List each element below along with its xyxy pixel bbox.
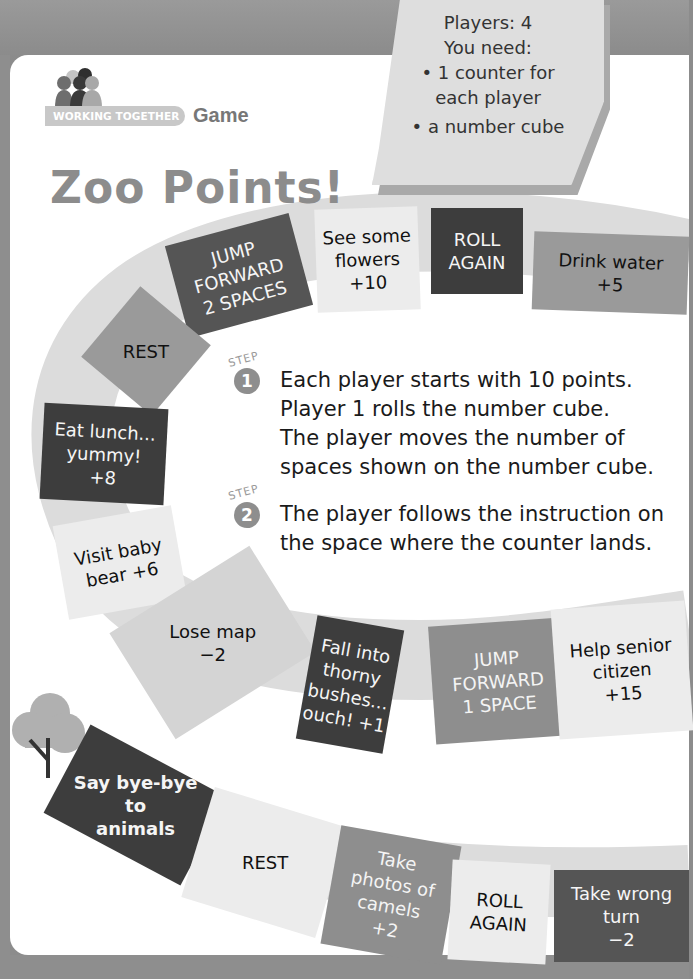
you-need-label: You need: <box>372 35 604 60</box>
materials-note-text: Players: 4 You need: • 1 counter for eac… <box>372 10 604 139</box>
board-space[interactable]: Help senior citizen +15 <box>551 600 693 739</box>
banner-game-label: Game <box>193 104 249 127</box>
board-space[interactable]: Eat lunch... yummy! +8 <box>40 403 169 505</box>
board-space[interactable]: See some flowers +10 <box>314 206 421 313</box>
board-space[interactable]: Drink water +5 <box>532 231 690 314</box>
board-space[interactable]: ROLL AGAIN <box>431 208 523 294</box>
board-space[interactable]: JUMP FORWARD 1 SPACE <box>428 618 568 745</box>
people-group-icon <box>55 68 115 108</box>
page-title: Zoo Points! <box>50 162 345 213</box>
board-space[interactable]: ROLL AGAIN <box>447 860 550 965</box>
players-count: Players: 4 <box>372 10 604 35</box>
board-space[interactable]: Take photos of camels +2 <box>321 825 462 964</box>
material-item: • 1 counter for <box>372 60 604 85</box>
board-space[interactable]: Take wrong turn −2 <box>554 870 689 962</box>
step-2-text: The player follows the instruction on th… <box>280 500 664 558</box>
material-item: • a number cube <box>372 114 604 139</box>
step-1-text: Each player starts with 10 points. Playe… <box>280 366 654 482</box>
step-2-badge: 2 <box>234 502 260 528</box>
working-together-banner: WORKING TOGETHER <box>45 106 185 126</box>
step-1-badge: 1 <box>234 368 260 394</box>
material-item: each player <box>372 85 604 110</box>
